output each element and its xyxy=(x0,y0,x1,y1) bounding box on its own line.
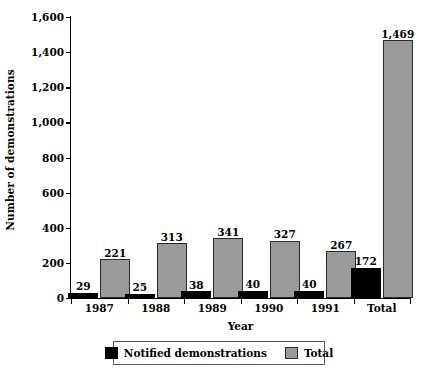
y-axis-tick-label: 600 xyxy=(42,187,64,198)
x-axis-category-label: 1990 xyxy=(254,303,283,314)
legend-swatch-icon xyxy=(285,347,298,359)
bar-value-label: 1,469 xyxy=(381,29,414,40)
bar-value-label: 38 xyxy=(189,280,204,291)
x-axis-category-label: 1989 xyxy=(198,303,227,314)
legend-entry[interactable]: Notified demonstrations xyxy=(105,347,267,359)
bar[interactable]: 172 xyxy=(351,268,381,298)
bar[interactable]: 25 xyxy=(125,294,155,298)
bar-value-label: 341 xyxy=(217,227,239,238)
bar-group: 40267 xyxy=(294,17,356,298)
bar-value-label: 267 xyxy=(330,240,352,251)
bar-group: 1721,469 xyxy=(351,17,413,298)
y-axis-tick-label: 1,600 xyxy=(31,12,64,23)
bar-value-label: 29 xyxy=(76,281,91,292)
y-axis-tick-label: 1,000 xyxy=(31,117,64,128)
bar-value-label: 221 xyxy=(104,248,126,259)
x-axis-category-label: 1991 xyxy=(311,303,340,314)
x-axis-separator-tick xyxy=(128,298,129,304)
x-axis-separator-tick xyxy=(297,298,298,304)
bar-value-label: 40 xyxy=(245,279,260,290)
bar-group: 38341 xyxy=(181,17,243,298)
y-axis-title-text: Number of demonstrations xyxy=(4,69,16,230)
x-axis-category-label: Total xyxy=(367,303,396,314)
chart-legend: Notified demonstrationsTotal xyxy=(113,341,325,365)
bar-value-label: 172 xyxy=(355,256,377,267)
legend-entry[interactable]: Total xyxy=(285,347,333,359)
bar[interactable]: 40 xyxy=(294,291,324,298)
bar-group: 40327 xyxy=(238,17,300,298)
x-axis-category-label: 1988 xyxy=(141,303,170,314)
bar[interactable]: 38 xyxy=(181,291,211,298)
bar-value-label: 40 xyxy=(302,279,317,290)
x-axis-separator-tick xyxy=(71,298,72,304)
bar[interactable]: 40 xyxy=(238,291,268,298)
bar-value-label: 327 xyxy=(274,229,296,240)
y-axis-tick-label: 1,200 xyxy=(31,82,64,93)
bar-group: 25313 xyxy=(125,17,187,298)
legend-swatch-icon xyxy=(105,347,118,359)
y-axis-tick-label: 800 xyxy=(42,152,64,163)
legend-label: Total xyxy=(304,348,333,359)
y-axis-tick-label: 400 xyxy=(42,223,64,234)
y-axis-tick-label: 1,400 xyxy=(31,47,64,58)
bar-chart: Number of demonstrations 02004006008001,… xyxy=(0,0,422,378)
x-axis-separator-tick xyxy=(241,298,242,304)
x-axis-title: Year xyxy=(71,320,410,332)
plot-area: 02004006008001,0001,2001,4001,600 292212… xyxy=(71,17,410,298)
x-axis-category-label: 1987 xyxy=(85,303,114,314)
y-axis-title: Number of demonstrations xyxy=(0,0,20,300)
x-axis-separator-tick xyxy=(354,298,355,304)
bar-value-label: 313 xyxy=(161,232,183,243)
bar[interactable]: 1,469 xyxy=(383,40,413,298)
x-axis-separator-tick xyxy=(184,298,185,304)
bar-group: 29221 xyxy=(68,17,130,298)
bar[interactable]: 29 xyxy=(68,293,98,298)
bar-value-label: 25 xyxy=(132,282,147,293)
x-axis-separator-tick xyxy=(410,298,411,304)
y-axis-tick-label: 200 xyxy=(42,258,64,269)
y-axis-tick-label: 0 xyxy=(57,293,64,304)
legend-label: Notified demonstrations xyxy=(124,348,267,359)
